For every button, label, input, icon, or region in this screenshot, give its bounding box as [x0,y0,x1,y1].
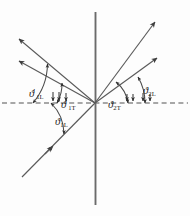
label-theta-2L: ϑ2L [143,81,156,97]
ray-diagram-figure: ϑ′1L ϑ′1T ϑ1L ϑ2T ϑ2L [0,0,190,216]
label-theta-1L-prime: ϑ′1L [29,84,44,100]
theta-subscript: 2T [113,105,121,112]
label-theta-2T: ϑ2T [108,95,121,111]
theta-subscript: 1L [36,94,44,101]
theta-subscript: 1L [60,122,68,129]
diagram-canvas [0,0,190,216]
theta-subscript: 1T [68,105,76,112]
label-theta-1T-prime: ϑ′1T [61,95,76,111]
label-theta-1L: ϑ1L [55,112,68,128]
theta-subscript: 2L [148,91,156,98]
incident-arrowhead [45,147,52,154]
prime-mark: ′ [65,98,67,108]
prime-mark: ′ [33,87,35,97]
